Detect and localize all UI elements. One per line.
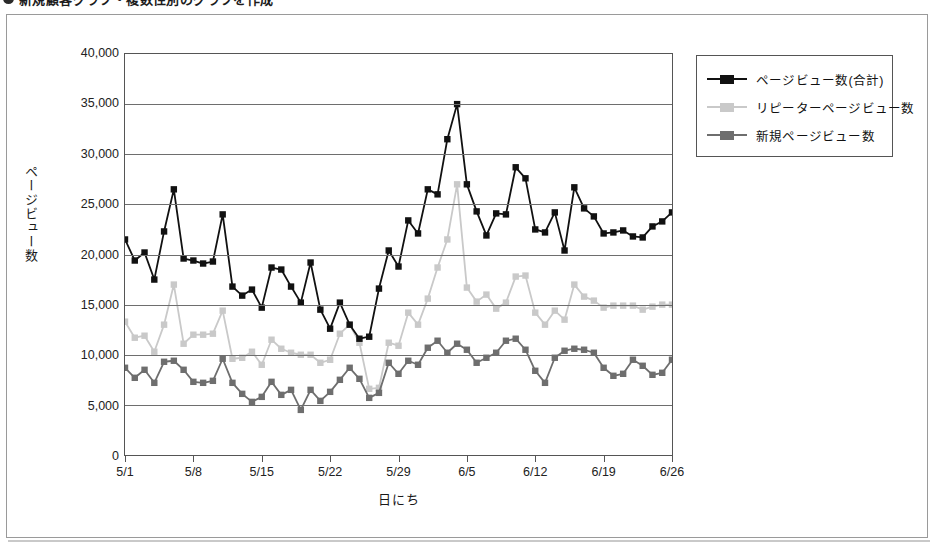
data-point-marker (493, 210, 499, 216)
data-point-marker (659, 218, 665, 224)
legend-item-new[interactable]: 新規ページビュー数 (697, 121, 892, 149)
data-point-marker (210, 331, 216, 337)
data-point-marker (356, 336, 362, 342)
data-point-marker (532, 226, 538, 232)
data-point-marker (249, 286, 255, 292)
data-point-marker (454, 341, 460, 347)
data-point-marker (180, 341, 186, 347)
data-point-marker (229, 356, 235, 362)
data-point-marker (610, 302, 616, 308)
data-point-marker (415, 362, 421, 368)
data-point-marker (366, 395, 372, 401)
data-point-marker (366, 334, 372, 340)
data-point-marker (473, 208, 479, 214)
data-point-marker (464, 284, 470, 290)
data-point-marker (640, 234, 646, 240)
data-point-marker (239, 391, 245, 397)
legend-label: 新規ページビュー数 (756, 126, 875, 145)
data-point-marker (630, 302, 636, 308)
plot-area (124, 53, 673, 456)
data-point-marker (395, 343, 401, 349)
data-point-marker (444, 136, 450, 142)
data-point-marker (125, 318, 128, 324)
data-point-marker (513, 336, 519, 342)
data-point-marker (317, 360, 323, 366)
data-point-marker (180, 255, 186, 261)
data-point-marker (229, 283, 235, 289)
data-point-marker (483, 291, 489, 297)
data-point-marker (630, 357, 636, 363)
data-point-marker (552, 209, 558, 215)
data-point-marker (288, 387, 294, 393)
data-point-marker (346, 365, 352, 371)
data-point-marker (571, 346, 577, 352)
x-axis-tick-labels: 5/15/85/155/225/296/56/126/196/26 (124, 456, 673, 486)
data-point-marker (659, 370, 665, 376)
y-axis-tick-label: 25,000 (81, 197, 119, 211)
data-point-marker (513, 164, 519, 170)
data-point-marker (425, 345, 431, 351)
data-point-marker (669, 357, 672, 363)
x-axis-tick-label: 6/12 (523, 465, 547, 479)
data-point-marker (493, 305, 499, 311)
data-point-marker (503, 211, 509, 217)
data-point-marker (278, 392, 284, 398)
data-point-marker (649, 223, 655, 229)
series-line (125, 104, 672, 339)
data-point-marker (337, 331, 343, 337)
y-axis-tick-labels: 05,00010,00015,00020,00025,00030,00035,0… (7, 53, 119, 456)
data-point-marker (298, 407, 304, 413)
data-point-marker (268, 337, 274, 343)
data-point-marker (591, 297, 597, 303)
data-point-marker (278, 266, 284, 272)
data-point-marker (434, 264, 440, 270)
data-point-marker (591, 213, 597, 219)
y-axis-tick-label: 15,000 (81, 298, 119, 312)
series-ページビュー数(合計) (125, 101, 672, 342)
data-point-marker (532, 368, 538, 374)
data-point-marker (610, 229, 616, 235)
legend-label: リピーターページビュー数 (756, 98, 914, 117)
data-point-marker (259, 394, 265, 400)
data-point-marker (180, 367, 186, 373)
legend-marker (720, 75, 734, 84)
data-point-marker (161, 359, 167, 365)
data-point-marker (210, 378, 216, 384)
legend-item-repeater[interactable]: リピーターページビュー数 (697, 93, 892, 121)
data-point-marker (405, 217, 411, 223)
data-point-marker (132, 257, 138, 263)
data-point-marker (132, 335, 138, 341)
data-point-marker (581, 205, 587, 211)
x-axis-tick-label: 5/8 (185, 465, 202, 479)
data-point-marker (219, 307, 225, 313)
data-point-marker (513, 273, 519, 279)
data-point-marker (268, 379, 274, 385)
data-point-marker (571, 281, 577, 287)
data-point-marker (141, 333, 147, 339)
data-point-marker (376, 390, 382, 396)
gridline (125, 104, 672, 105)
x-axis-title: 日にち (124, 489, 673, 508)
series-line (125, 184, 672, 389)
data-point-marker (483, 232, 489, 238)
data-point-marker (561, 247, 567, 253)
data-point-marker (600, 365, 606, 371)
gridline (125, 255, 672, 256)
data-point-marker (210, 258, 216, 264)
x-axis-tick-label: 5/15 (250, 465, 274, 479)
data-point-marker (190, 379, 196, 385)
data-point-marker (125, 365, 128, 371)
data-point-marker (288, 283, 294, 289)
data-point-marker (669, 209, 672, 215)
y-axis-tick-label: 5,000 (88, 399, 119, 413)
data-point-marker (434, 191, 440, 197)
data-point-marker (346, 321, 352, 327)
data-point-marker (542, 229, 548, 235)
legend-item-total[interactable]: ページビュー数(合計) (697, 65, 892, 93)
data-point-marker (200, 332, 206, 338)
data-point-marker (561, 348, 567, 354)
x-axis-tick-label: 6/19 (591, 465, 615, 479)
y-axis-tick-label: 0 (112, 449, 119, 463)
data-point-marker (190, 332, 196, 338)
data-point-marker (395, 263, 401, 269)
